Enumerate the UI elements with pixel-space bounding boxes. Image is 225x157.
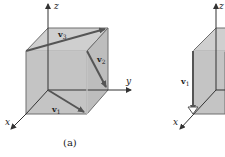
cube-front-face (193, 51, 225, 114)
x-axis-label: x (5, 117, 10, 127)
z-axis-label-b: z (218, 1, 224, 11)
x-axis (11, 114, 26, 129)
x-axis-label-b: x (173, 117, 178, 127)
caption-a: (a) (63, 137, 77, 148)
y-axis-label: y (125, 76, 132, 86)
figure-canvas: z y x v1 v2 v3 (a) z x v1 (0, 0, 225, 157)
v1-label-b: v1 (180, 76, 189, 87)
cube-b (193, 28, 225, 114)
cube-top-face (193, 28, 225, 51)
z-axis-label: z (53, 1, 59, 11)
